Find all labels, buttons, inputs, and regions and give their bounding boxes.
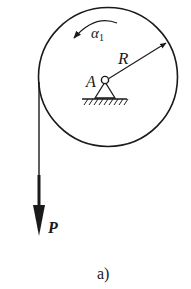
radius-arrow [108, 43, 166, 79]
force-arrow-head [33, 205, 45, 236]
label-force: P [47, 219, 58, 236]
pin-icon [101, 76, 108, 83]
pulley-diagram: α1 R A P a) [0, 0, 191, 289]
figure-caption: a) [97, 265, 109, 283]
label-alpha: α1 [91, 25, 104, 43]
label-radius: R [117, 49, 129, 68]
label-pivot: A [85, 73, 96, 90]
ground-hatch [84, 99, 128, 105]
